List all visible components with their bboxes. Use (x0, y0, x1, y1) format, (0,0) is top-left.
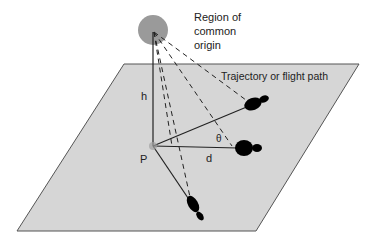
height-label: h (141, 90, 147, 102)
origin-label-line2: common (194, 25, 236, 37)
origin-label-line3: origin (194, 39, 221, 51)
origin-label-line1: Region of (194, 11, 242, 23)
trajectory-label: Trajectory or flight path (221, 70, 328, 82)
ground-plane (17, 64, 359, 231)
distance-label: d (206, 152, 212, 164)
point-label: P (140, 153, 147, 165)
point-p-marker (149, 142, 157, 150)
angle-label: θ (216, 133, 222, 144)
common-origin-diagram: Region of common origin Trajectory or fl… (0, 0, 376, 243)
